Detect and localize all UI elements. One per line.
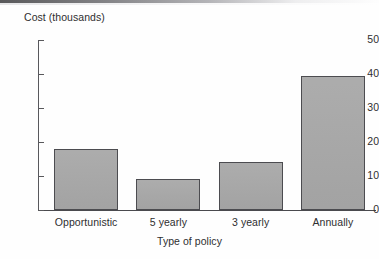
bar [54, 149, 118, 210]
x-tick-label: 5 yearly [127, 216, 209, 228]
y-tick-mark [38, 142, 44, 143]
bar-chart: Cost (thousands) 01020304050 Opportunist… [0, 0, 379, 259]
y-tick-mark [38, 74, 44, 75]
y-axis-title: Cost (thousands) [24, 11, 105, 23]
x-axis-title: Type of policy [0, 235, 379, 247]
y-tick-mark [38, 108, 44, 109]
y-tick-mark [38, 210, 44, 211]
bar [136, 179, 200, 210]
y-axis-line [38, 40, 39, 211]
x-axis-line [38, 210, 376, 211]
bar [219, 162, 283, 210]
x-tick-label: Opportunistic [45, 216, 127, 228]
x-tick-label: Annually [292, 216, 374, 228]
figure-canvas: Cost (thousands) 01020304050 Opportunist… [0, 0, 379, 259]
x-tick-label: 3 yearly [210, 216, 292, 228]
bar [301, 76, 365, 210]
y-tick-mark [38, 40, 44, 41]
y-tick-label: 50 [347, 33, 379, 45]
y-tick-mark [38, 176, 44, 177]
